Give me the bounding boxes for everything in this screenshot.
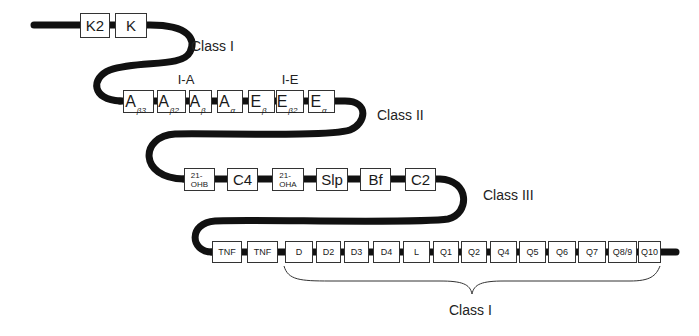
gene-box-a-beta3: Aβ3 <box>123 90 154 113</box>
gene-label: K2 <box>86 17 104 34</box>
gene-box-a-beta: Aβ <box>189 90 212 113</box>
class-ii-label: Class II <box>377 107 424 123</box>
gene-box-q4: Q4 <box>490 241 517 263</box>
gene-subscript: α <box>322 106 327 115</box>
gene-label: E <box>250 93 261 110</box>
gene-box-e-beta: Eβ <box>248 90 275 113</box>
chromosome-backbone <box>0 0 699 336</box>
gene-box-q2: Q2 <box>461 241 487 263</box>
gene-label: Q8/9 <box>613 247 633 257</box>
gene-label: Q5 <box>526 247 538 257</box>
gene-box-tnf-2: TNF <box>247 241 278 263</box>
gene-label: A <box>219 93 230 110</box>
gene-box-c2: C2 <box>405 168 436 191</box>
class-i-label-top: Class I <box>191 38 234 54</box>
gene-label: Slp <box>321 171 343 188</box>
gene-box-21-oha: 21-OHA <box>272 168 304 191</box>
gene-subscript: β2 <box>288 106 297 115</box>
gene-box-a-alpha: Aα <box>217 90 243 113</box>
gene-box-d3: D3 <box>344 241 369 263</box>
gene-label: K <box>126 17 136 34</box>
gene-box-d2: D2 <box>316 241 341 263</box>
gene-box-k2: K2 <box>80 13 110 38</box>
gene-label: C2 <box>411 171 430 188</box>
class-i-label-bottom: Class I <box>449 302 492 318</box>
gene-label: TNF <box>218 247 236 257</box>
gene-label: A <box>158 93 169 110</box>
gene-label: Q6 <box>556 247 568 257</box>
gene-label: Q7 <box>586 247 598 257</box>
gene-box-q10: Q10 <box>638 241 661 263</box>
gene-subscript: β3 <box>137 106 146 115</box>
gene-label: E <box>310 93 321 110</box>
gene-label: A <box>189 93 200 110</box>
gene-label: Q10 <box>641 247 658 257</box>
gene-box-c4: C4 <box>227 168 258 191</box>
gene-box-a-beta2: Aβ2 <box>157 90 186 113</box>
gene-box-e-alpha: Eα <box>308 90 335 113</box>
gene-label: Q2 <box>468 247 480 257</box>
gene-label: C4 <box>233 171 252 188</box>
gene-label: L <box>414 247 419 257</box>
i-e-region-label: I-E <box>282 72 299 87</box>
class-iii-label: Class III <box>483 187 534 203</box>
gene-label: D3 <box>351 247 363 257</box>
gene-label: TNF <box>254 247 272 257</box>
gene-label: A <box>125 93 136 110</box>
gene-label: D4 <box>381 247 393 257</box>
gene-label-line1: 21- <box>191 171 208 180</box>
gene-subscript: β <box>262 106 267 115</box>
gene-label: E <box>277 93 288 110</box>
gene-label: Bf <box>368 171 382 188</box>
class-i-brace <box>284 266 660 294</box>
gene-subscript: β2 <box>170 106 179 115</box>
i-a-region-label: I-A <box>178 72 195 87</box>
gene-subscript: β <box>201 106 206 115</box>
gene-box-slp: Slp <box>316 168 348 191</box>
gene-subscript: α <box>231 106 236 115</box>
gene-box-q8-9: Q8/9 <box>608 241 637 263</box>
gene-box-bf: Bf <box>360 168 391 191</box>
gene-box-q5: Q5 <box>519 241 546 263</box>
gene-box-q7: Q7 <box>578 241 606 263</box>
gene-box-d: D <box>285 241 313 263</box>
gene-box-l: L <box>403 241 430 263</box>
gene-label: Q4 <box>497 247 509 257</box>
gene-label: D <box>296 247 303 257</box>
gene-box-q6: Q6 <box>548 241 576 263</box>
gene-label: D2 <box>323 247 335 257</box>
gene-box-q1: Q1 <box>433 241 459 263</box>
gene-box-e-beta2: Eβ2 <box>276 90 304 113</box>
gene-label-line2: OHA <box>279 180 296 189</box>
gene-box-tnf-1: TNF <box>212 241 242 263</box>
gene-box-d4: D4 <box>373 241 400 263</box>
gene-box-21-ohb: 21-OHB <box>184 168 215 191</box>
gene-label: Q1 <box>440 247 452 257</box>
gene-label-line1: 21- <box>279 171 296 180</box>
gene-box-k: K <box>115 13 147 38</box>
gene-label-line2: OHB <box>191 180 208 189</box>
